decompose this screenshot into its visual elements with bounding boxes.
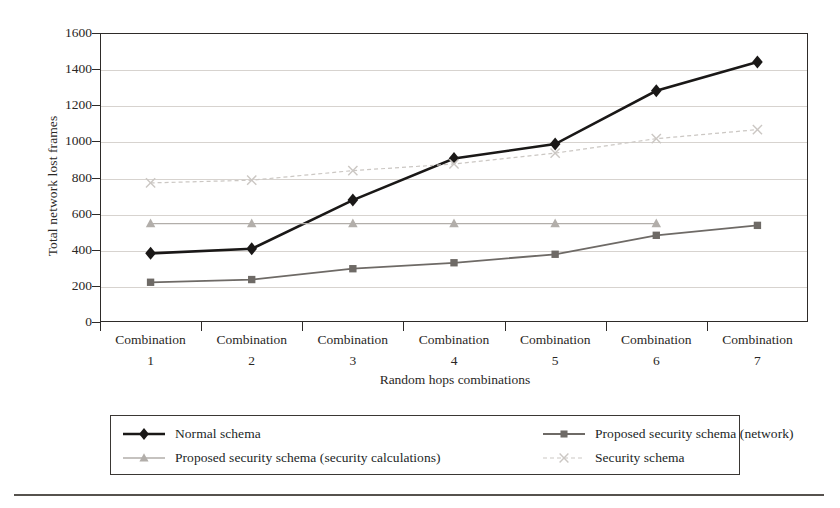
legend-label: Security schema (595, 450, 685, 466)
series-layer (100, 33, 808, 322)
legend-item[interactable]: Proposed security schema (security calcu… (121, 450, 541, 466)
x-axis-title: Random hops combinations (100, 372, 810, 388)
legend-label: Proposed security schema (network) (595, 426, 794, 442)
series-3 (146, 219, 661, 228)
data-point-marker (246, 242, 257, 255)
y-tick-label: 800 (32, 170, 92, 186)
data-point-marker (754, 222, 761, 229)
legend-item[interactable]: Normal schema (121, 426, 541, 442)
y-tick-label: 1000 (32, 133, 92, 149)
legend-marker-triangle-icon (121, 450, 167, 466)
data-point-marker (145, 247, 156, 260)
data-point-marker (753, 125, 762, 134)
legend-item[interactable]: Security schema (541, 450, 794, 466)
legend-marker-cross-icon (541, 450, 587, 466)
bottom-divider (14, 494, 824, 496)
y-tick-label: 0 (32, 314, 92, 330)
data-point-marker (752, 55, 763, 68)
y-tick-label: 1600 (32, 25, 92, 41)
data-point-marker (349, 265, 356, 272)
legend-marker-square-icon (541, 426, 587, 442)
data-point-marker (248, 276, 255, 283)
legend-marker-diamond-icon (121, 426, 167, 442)
x-tick-label: Combination7 (692, 330, 822, 372)
legend-item[interactable]: Proposed security schema (network) (541, 426, 794, 442)
series-1 (145, 55, 763, 259)
data-point-marker (450, 259, 457, 266)
chart-legend: Normal schemaProposed security schema (n… (110, 415, 740, 475)
data-point-marker (653, 232, 660, 239)
data-point-marker (247, 176, 256, 185)
y-tick-label: 1200 (32, 97, 92, 113)
chart-figure: Total network lost frames 02004006008001… (0, 0, 840, 508)
legend-label: Proposed security schema (security calcu… (175, 450, 441, 466)
y-tick-label: 400 (32, 242, 92, 258)
series-2 (147, 222, 761, 286)
data-point-marker (348, 194, 359, 207)
y-tick-label: 200 (32, 278, 92, 294)
y-tick-label: 1400 (32, 61, 92, 77)
legend-label: Normal schema (175, 426, 261, 442)
data-point-marker (551, 251, 558, 258)
y-tick-label: 600 (32, 206, 92, 222)
data-point-marker (147, 279, 154, 286)
series-line (151, 225, 758, 282)
data-point-marker (651, 84, 662, 97)
